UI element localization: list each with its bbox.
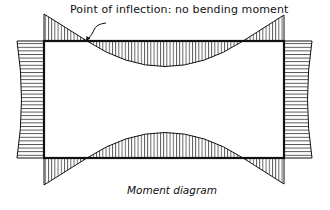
inflection-point-label: Point of inflection: no bending moment bbox=[70, 3, 288, 16]
right-column-diagram bbox=[284, 41, 312, 158]
inflection-leader-arrow bbox=[86, 23, 106, 41]
moment-diagram-figure bbox=[0, 0, 330, 210]
diagram-caption: Moment diagram bbox=[127, 184, 217, 196]
left-column-diagram bbox=[17, 41, 44, 158]
